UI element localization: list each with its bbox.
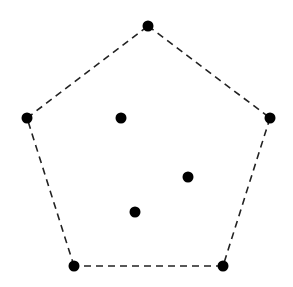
interior-point-p2 <box>183 172 194 183</box>
hull-vertex-v2 <box>265 113 276 124</box>
interior-point-p3 <box>130 207 141 218</box>
convex-hull-diagram <box>0 0 293 287</box>
hull-vertex-v4 <box>69 261 80 272</box>
hull-vertex-v5 <box>22 113 33 124</box>
hull-vertex-v3 <box>218 261 229 272</box>
background <box>0 0 293 287</box>
hull-vertex-v1 <box>143 21 154 32</box>
interior-point-p1 <box>116 113 127 124</box>
